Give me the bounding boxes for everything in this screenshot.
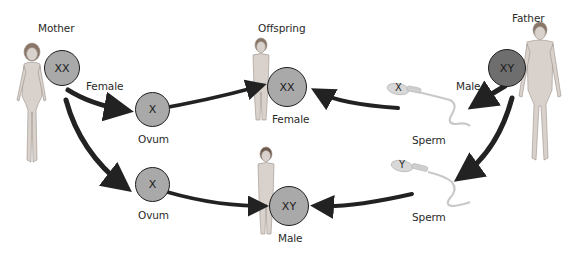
father-label: Father: [512, 12, 544, 24]
male-arrow-label: Male: [456, 80, 480, 92]
male-offspring-cell-xy: XY: [269, 186, 309, 226]
female-offspring-cell-xx: XX: [267, 67, 307, 107]
sperm-top-chromosome: X: [395, 82, 402, 93]
mother-label: Mother: [38, 22, 74, 34]
sex-determination-diagram: Mother Father Offspring Female Male XX X…: [0, 0, 571, 256]
female-arrow-label: Female: [86, 80, 123, 92]
boy-figure-icon: [258, 147, 274, 234]
father-figure-icon: [519, 22, 561, 160]
arrow-mother-to-ovum-bottom: [66, 100, 124, 186]
arrow-sperm-x-to-female: [318, 92, 398, 108]
father-cell-xy: XY: [488, 49, 526, 87]
offspring-heading: Offspring: [258, 22, 305, 34]
arrow-father-to-sperm-y: [462, 98, 512, 176]
ovum-bottom-cell: X: [135, 167, 170, 202]
ovum-top-cell: X: [135, 92, 170, 127]
ovum-top-label: Ovum: [138, 133, 169, 145]
sperm-top-label: Sperm: [412, 134, 446, 146]
sperm-bottom-label: Sperm: [412, 211, 446, 223]
arrow-ovum-bottom-to-male: [154, 188, 262, 206]
arrow-mother-to-ovum-top: [68, 90, 124, 110]
mother-cell-xx: XX: [44, 50, 80, 86]
arrow-sperm-y-to-male: [318, 194, 412, 206]
mother-figure-icon: [17, 43, 46, 162]
girl-figure-icon: [253, 38, 269, 120]
sperm-bottom-chromosome: Y: [399, 159, 405, 170]
ovum-bottom-label: Ovum: [138, 209, 169, 221]
female-offspring-label: Female: [272, 113, 309, 125]
male-offspring-label: Male: [278, 232, 302, 244]
